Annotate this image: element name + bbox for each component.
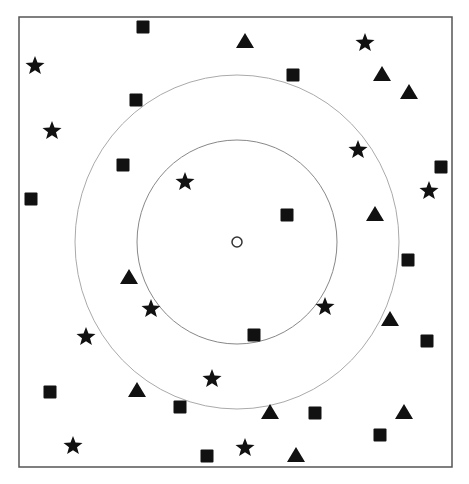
square-marker (248, 329, 261, 342)
square-marker (137, 21, 150, 34)
square-marker (201, 450, 214, 463)
square-marker (287, 69, 300, 82)
square-marker (44, 386, 57, 399)
square-marker (309, 407, 322, 420)
square-marker (130, 94, 143, 107)
square-marker (174, 401, 187, 414)
square-marker (435, 161, 448, 174)
square-marker (281, 209, 294, 222)
query-point-marker (232, 237, 242, 247)
square-marker (25, 193, 38, 206)
square-marker (421, 335, 434, 348)
square-marker (374, 429, 387, 442)
knn-diagram (0, 0, 469, 484)
square-marker (402, 254, 415, 267)
square-marker (117, 159, 130, 172)
